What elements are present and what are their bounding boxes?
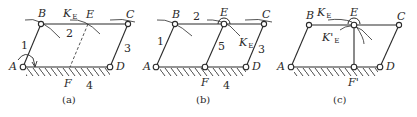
caption-c: (c) [333,95,346,105]
label-A: A [277,61,285,72]
joint-B [172,21,177,26]
label-KE-prime: K'E [322,32,339,45]
caption-b: (b) [196,95,210,105]
label-D: D [386,61,395,72]
joint-C [125,21,130,26]
joint-E [221,21,227,27]
label-sub-E: E [326,12,331,20]
label-sub-E: E [248,42,253,50]
label-F: F [64,78,72,89]
joint-A [153,64,159,70]
label-K: K [239,36,247,49]
label-B: B [38,8,46,19]
coupler-curve-KE-prime [340,26,372,40]
label-KE: KE [317,7,331,20]
joint-C [396,22,401,27]
label-E: E [350,7,358,18]
joint-A [288,64,294,70]
label-link-5: 5 [218,41,225,52]
label-K: K [317,6,325,19]
label-KE: KE [63,8,77,21]
label-link-3: 3 [124,43,131,54]
caption-a: (a) [62,95,76,105]
label-link-2: 2 [193,11,200,22]
label-link-4: 4 [86,80,93,91]
ground-hatching [294,68,378,76]
joint-D [107,64,113,70]
label-D: D [116,61,125,72]
linkage-diagram-figure: B KE E C 1 2 3 A D F 4 (a) B 2 E C 1 5 K… [0,0,417,117]
joint-D [377,64,383,70]
label-A: A [9,61,17,72]
panel-c-mechanism [288,18,401,76]
joint-D [243,64,249,70]
label-F-prime: F' [348,77,359,88]
joint-F-prime [351,64,357,70]
link-AB [291,25,309,67]
label-link-1: 1 [157,36,164,47]
joint-F [202,64,208,70]
label-link-4: 4 [223,80,230,91]
label-E: E [220,7,228,18]
label-K: K [63,7,71,20]
joint-E [351,22,357,28]
ground-hatching [26,68,110,76]
label-C: C [126,9,134,20]
joint-B [306,22,311,27]
label-E: E [86,9,94,20]
label-sub-E: E [72,13,77,21]
label-B: B [172,9,180,20]
label-C: C [262,9,270,20]
rotation-arrow [18,54,35,66]
label-D: D [252,61,261,72]
label-C: C [397,11,405,22]
label-B: B [306,10,314,21]
coupler-curve-KE [70,20,100,34]
label-link-1: 1 [21,40,28,51]
joint-B [38,21,43,26]
label-F: F [201,77,209,88]
label-K-prime: K' [322,31,333,44]
label-A: A [143,61,151,72]
label-sub-E: E [334,37,339,45]
label-link-2: 2 [66,28,73,39]
label-link-3: 3 [258,44,265,55]
label-KE: KE [239,37,253,50]
joint-C [261,21,266,26]
joint-A [20,64,26,70]
